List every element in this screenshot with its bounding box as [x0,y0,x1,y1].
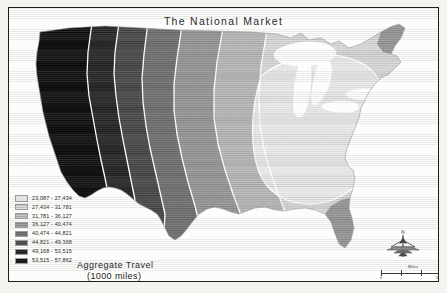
legend[interactable]: 23,087 - 27,434 27,434 - 31,781 31,781 -… [15,194,72,265]
legend-swatch-6 [15,240,28,246]
legend-label-4: 36,127 - 40,474 [32,222,72,227]
map-page: The National Market 23,087 - 27,434 27,4… [0,0,447,293]
legend-item[interactable]: 23,087 - 27,434 [15,194,72,203]
north-arrow: N [381,230,425,265]
legend-swatch-1 [15,195,28,201]
scale-start-label: 0 [380,276,382,280]
legend-item[interactable]: 36,127 - 40,474 [15,221,72,230]
legend-item[interactable]: 27,434 - 31,781 [15,203,72,212]
legend-item[interactable]: 53,515 - 57,862 [15,256,72,265]
legend-item[interactable]: 40,474 - 44,821 [15,230,72,239]
legend-swatch-3 [15,213,28,219]
united-states-choropleth[interactable] [9,8,439,282]
legend-label-7: 49,168 - 53,515 [32,249,72,254]
legend-label-2: 27,434 - 31,781 [32,205,72,210]
scale-bar-line [381,273,439,274]
scale-bar: Miles 0 500 [381,264,439,281]
legend-label-3: 31,781 - 36,127 [32,214,72,219]
compass-icon [381,235,425,261]
caption-line-1: Aggregate Travel [77,260,154,270]
legend-item[interactable]: 49,168 - 53,515 [15,247,72,256]
map-frame: The National Market 23,087 - 27,434 27,4… [8,7,439,282]
map-title: The National Market [9,15,438,27]
legend-label-8: 53,515 - 57,862 [32,258,72,263]
legend-swatch-4 [15,222,28,228]
legend-caption: Aggregate Travel (1000 miles) [77,260,154,281]
legend-label-1: 23,087 - 27,434 [32,196,72,201]
legend-swatch-2 [15,204,28,210]
scale-bar-units: Miles [381,264,439,269]
legend-item[interactable]: 44,821 - 49,368 [15,238,72,247]
legend-label-6: 44,821 - 49,368 [32,240,72,245]
caption-line-2: (1000 miles) [77,271,154,281]
legend-swatch-7 [15,249,28,255]
scale-bar-endpoints: 0 500 [381,276,439,281]
legend-swatch-5 [15,231,28,237]
scale-end-label: 500 [436,276,439,280]
legend-swatch-8 [15,258,28,264]
legend-label-5: 40,474 - 44,821 [32,231,72,236]
legend-item[interactable]: 31,781 - 36,127 [15,212,72,221]
map-canvas [9,8,438,281]
